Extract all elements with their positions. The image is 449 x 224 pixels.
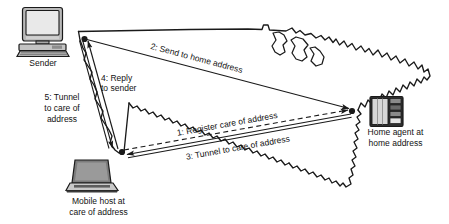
- desktop-computer-icon: [17, 8, 69, 57]
- node-label-mobile-host-line1: Mobile host at: [46, 196, 151, 207]
- laptop-icon: [66, 160, 118, 193]
- node-label-home-agent-line1: Home agent at: [348, 127, 443, 138]
- flow-label-5-line1: 5: Tunnel: [32, 92, 92, 103]
- server-tower-icon: [370, 97, 403, 127]
- node-dot-sender: [81, 36, 87, 42]
- flow-label-4-line2: to sender: [101, 83, 136, 94]
- flow-label-5-line3: address: [32, 114, 92, 125]
- flow-label-5-line2: to care of: [32, 103, 92, 114]
- flow-label-4-line1: 4: Reply: [101, 73, 132, 84]
- node-label-sender: Sender: [14, 58, 72, 69]
- node-label-home-agent-line2: home address: [348, 138, 443, 149]
- great-lakes-outline: [272, 32, 324, 66]
- node-dot-mobile-host: [119, 149, 125, 155]
- node-dot-home-agent: [349, 108, 355, 114]
- node-label-mobile-host-line2: care of address: [46, 207, 151, 218]
- flow-line-4-reply-to-sender: [88, 41, 118, 149]
- diagram-canvas: Sender 2: Send to home address 4: Reply …: [0, 0, 449, 224]
